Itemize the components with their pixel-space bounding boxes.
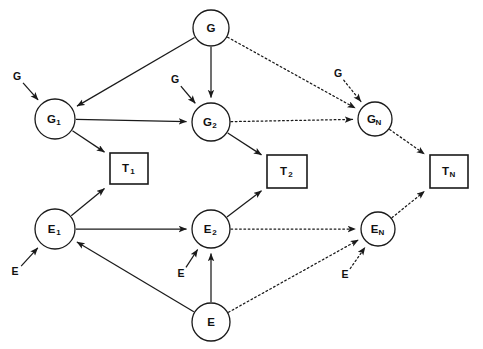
node-label: T [280,165,287,177]
edge-e2-to-t2 [227,191,262,217]
node-label: E [204,223,212,235]
diagram-canvas: GGGEEE GG1G2GNE1E2ENET1T2TN [0,0,483,349]
node-label-subscript: 1 [130,167,135,176]
edge-g2-to-t2 [228,133,262,155]
node-label-subscript: 1 [56,228,61,237]
node-label: G [47,113,56,125]
input-in-G-GN: G [334,67,361,102]
node-label: T [442,165,449,177]
input-label-text: E [341,268,348,280]
input-labels-layer: GGGEEE [11,67,365,280]
node-t1[interactable]: T1 [110,153,148,184]
input-label-text: E [177,267,184,279]
input-label-text: G [13,70,21,82]
edge-in-E-EN [350,247,365,268]
edge-g1-to-g2 [76,119,187,121]
graph-svg: GGGEEE GG1G2GNE1E2ENET1T2TN [0,0,483,349]
node-label: G [207,22,216,34]
node-label-subscript: N [450,170,456,179]
edge-in-G-G2 [181,86,195,103]
edge-in-E-E2 [186,250,198,268]
node-label-subscript: 2 [212,228,217,237]
edge-g2-to-gn [231,119,353,121]
node-label-subscript: 2 [288,170,293,179]
node-tn[interactable]: TN [430,155,468,188]
edge-g1-to-t1 [72,131,104,152]
edge-en-to-tn [392,191,425,217]
node-label: T [122,162,129,174]
node-en[interactable]: EN [361,212,395,246]
node-label: G [203,116,212,128]
node-e[interactable]: E [192,303,230,341]
input-in-E-E2: E [177,250,197,279]
nodes-layer: GG1G2GNE1E2ENET1T2TN [35,10,468,341]
input-in-E-E1: E [11,248,37,277]
node-label: E [207,316,215,328]
input-label-text: G [171,73,179,85]
edge-e-to-e1 [77,242,194,312]
node-label-subscript: 1 [56,118,61,127]
edge-e-to-en [228,240,358,312]
node-label-subscript: N [379,228,385,237]
input-in-G-G1: G [13,70,38,100]
edge-in-G-GN [344,80,361,101]
node-g1[interactable]: G1 [35,99,75,139]
node-gn[interactable]: GN [358,102,392,136]
edge-in-G-G1 [23,83,38,100]
node-label: E [371,223,379,235]
edge-gn-to-tn [390,129,425,154]
node-g2[interactable]: G2 [192,103,230,141]
input-label-text: E [11,265,18,277]
node-e1[interactable]: E1 [35,209,75,249]
input-in-E-EN: E [341,247,365,279]
node-e2[interactable]: E2 [192,210,230,248]
input-label-text: G [334,67,342,79]
node-label-subscript: N [376,118,382,127]
node-g[interactable]: G [193,10,229,46]
edge-in-E-E1 [21,248,38,266]
input-in-G-G2: G [171,73,195,103]
edge-e1-to-t1 [71,189,104,216]
node-label-subscript: 2 [212,121,217,130]
node-label: E [48,223,56,235]
node-t2[interactable]: T2 [267,155,307,188]
